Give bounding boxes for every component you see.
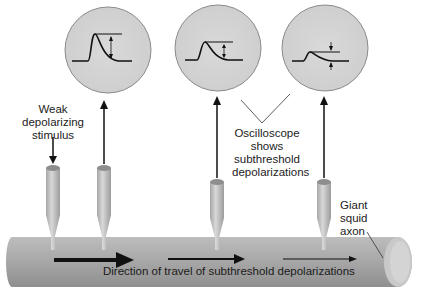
oscilloscope-label: Oscilloscope shows subthreshold depolari…: [232, 127, 302, 179]
oscilloscope-3: [282, 5, 368, 91]
oscilloscope-2: [175, 5, 261, 91]
oscilloscope-label-line: shows: [232, 140, 302, 153]
oscilloscope-label-pointers: [241, 94, 290, 123]
oscilloscope-label-line: subthreshold: [232, 153, 302, 166]
stimulus-label-line: depolarizing: [22, 116, 84, 129]
oscilloscope-label-line: Oscilloscope: [232, 127, 302, 140]
recording-arrow-2: [213, 96, 221, 178]
stimulus-label-line: stimulus: [22, 129, 84, 142]
stimulus-label-line: Weak: [22, 103, 84, 116]
axon-label-line: squid: [340, 212, 370, 225]
direction-label: Direction of travel of subthreshold depo…: [103, 265, 355, 277]
oscilloscope-label-line: depolarizations: [232, 166, 302, 179]
oscilloscope-1: [65, 7, 151, 93]
stimulus-label: Weak depolarizing stimulus: [22, 103, 84, 142]
axon-label-line: Giant: [340, 199, 370, 212]
diagram-canvas: [0, 0, 422, 288]
recording-arrow-1: [100, 100, 108, 164]
axon-label-line: axon: [340, 225, 370, 238]
recording-arrow-3: [320, 96, 328, 178]
axon-label: Giant squid axon: [340, 199, 370, 238]
